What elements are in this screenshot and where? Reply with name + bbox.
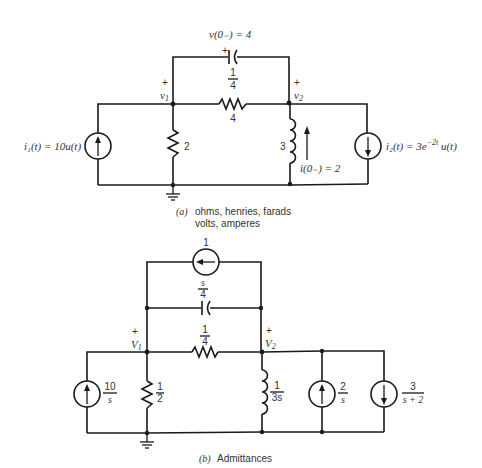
capacitor-polarity: +	[222, 45, 228, 56]
inductor-b	[262, 370, 268, 414]
svg-text:s: s	[108, 394, 112, 405]
node-V1-plus: +	[132, 326, 138, 337]
source-right-b-value: 3 s + 2	[402, 381, 424, 405]
svg-text:1: 1	[202, 324, 208, 335]
shunt-resistor-b-value: 1 2	[156, 381, 164, 404]
series-resistor-a	[219, 99, 246, 109]
bottom-wire-a	[98, 184, 368, 185]
node2-plus: +	[294, 77, 300, 88]
node-V1-label: V1	[131, 338, 142, 352]
arrow-up-icon	[319, 384, 325, 404]
node-V1	[145, 350, 150, 355]
node-v1	[171, 102, 176, 107]
caption-a-tag: (a)	[176, 206, 188, 218]
series-resistor-value: 4	[230, 113, 236, 124]
source-left-b-value: 10 s	[103, 381, 117, 405]
svg-text:1: 1	[230, 67, 236, 78]
top-wire-b-right	[218, 351, 384, 381]
bottom-wire-b	[87, 432, 384, 433]
arrow-down-icon	[381, 385, 387, 405]
series-resistor-b-value: 1 4	[200, 324, 210, 347]
svg-text:1: 1	[274, 380, 280, 391]
svg-text:4: 4	[202, 336, 208, 347]
node-V2	[260, 350, 265, 355]
caption-b-text: Admittances	[217, 453, 272, 464]
caption-a-line1: ohms, henries, farads	[195, 206, 291, 217]
arrow-down-icon	[365, 137, 371, 157]
caption-a-line2: volts, amperes	[195, 218, 260, 229]
node-V2-plus: +	[266, 325, 272, 336]
capacitor-value: 1 4	[228, 67, 238, 91]
source-i1-label: i₁(t) = 10u(t)	[24, 140, 81, 153]
caption-b-tag: (b)	[199, 453, 211, 465]
svg-text:s + 2: s + 2	[403, 394, 424, 405]
inductor-a	[290, 119, 296, 163]
svg-text:10: 10	[104, 381, 116, 392]
capacitor-b	[202, 301, 210, 315]
svg-text:2: 2	[157, 393, 163, 404]
svg-text:1: 1	[157, 381, 163, 392]
source-i2-label: i₂(t) = 3e−2t u(t)	[386, 138, 457, 153]
svg-text:4: 4	[200, 289, 206, 300]
shunt-resistor-a	[168, 130, 178, 157]
svg-text:s: s	[341, 394, 345, 405]
svg-text:2: 2	[340, 381, 346, 392]
arrow-up-icon	[84, 384, 90, 404]
inductor-b-value: 1 3s	[270, 380, 284, 403]
node2-label: v2	[294, 89, 303, 103]
series-resistor-b	[192, 347, 218, 357]
circuit-diagrams: + v(0₋) = 4 1 4 4 + v1 + v2 2 3 i(0₋) = …	[0, 0, 482, 468]
circuit-a: + v(0₋) = 4 1 4 4 + v1 + v2 2 3 i(0₋) = …	[24, 28, 457, 229]
ground-icon	[140, 433, 154, 448]
arrow-left-icon	[196, 259, 215, 265]
node-V2-label: V2	[265, 337, 276, 351]
top-wire-b-left	[87, 352, 192, 381]
capacitor-a	[229, 50, 237, 64]
arrow-up-icon	[95, 136, 101, 156]
circuit-b: 1 s 4 1 4 + V1 + V2 1	[74, 237, 424, 465]
shunt-resistor-b	[142, 381, 152, 408]
inductor-value: 3	[280, 141, 286, 152]
inductor-current-arrow	[304, 126, 310, 160]
ground-icon	[166, 185, 180, 200]
node-v2	[287, 101, 292, 106]
node1-plus: +	[162, 77, 168, 88]
svg-text:3s: 3s	[272, 392, 283, 403]
source-mid-b-value: 2 s	[338, 381, 348, 405]
svg-text:s: s	[201, 277, 205, 288]
top-source-value: 1	[203, 237, 209, 248]
shunt-resistor-value: 2	[184, 141, 190, 152]
capacitor-initial-voltage: v(0₋) = 4	[209, 28, 252, 41]
svg-text:4: 4	[230, 80, 236, 91]
node1-label: v1	[160, 89, 169, 103]
inductor-initial-current: i(0₋) = 2	[300, 162, 341, 175]
svg-text:3: 3	[410, 381, 416, 392]
top-wire-left	[98, 104, 219, 133]
capacitor-b-value: s 4	[198, 277, 208, 300]
